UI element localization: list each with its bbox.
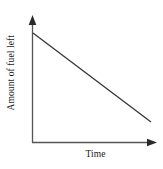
fuel-vs-time-chart: Amount of fuel left Time <box>0 0 163 169</box>
x-axis-arrowhead <box>147 139 157 147</box>
y-axis-label: Amount of fuel left <box>0 0 24 169</box>
fuel-data-line <box>33 33 151 122</box>
y-axis-arrowhead <box>29 15 37 25</box>
x-axis-label-text: Time <box>85 149 105 159</box>
chart-canvas <box>0 0 163 169</box>
y-axis-label-text: Amount of fuel left <box>7 35 17 111</box>
x-axis-label: Time <box>0 150 163 160</box>
